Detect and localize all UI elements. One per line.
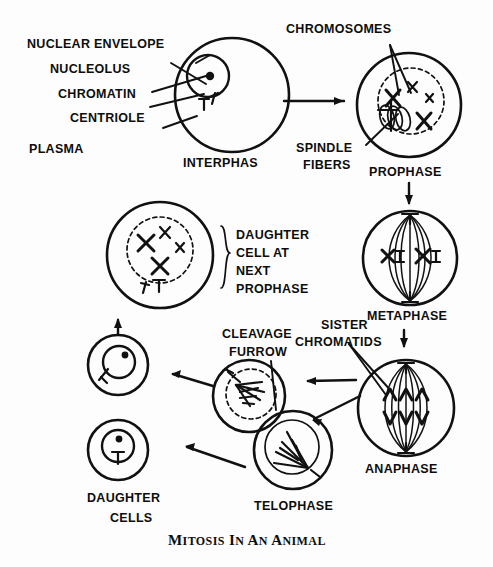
arrow-telophase-to-daughter-lower <box>185 443 245 467</box>
label-daughter-cells-line1: DAUGHTER <box>87 491 160 505</box>
title-a: A <box>248 532 259 548</box>
label-daughter-next-1: DAUGHTER <box>236 228 309 242</box>
arrow-interphase-to-prophase <box>284 97 344 105</box>
label-daughter-next-4: PROPHASE <box>236 282 309 296</box>
label-sister: SISTER <box>321 318 368 332</box>
label-centriole: CENTRIOLE <box>70 111 145 125</box>
stage-label-telophase: TELOPHASE <box>254 499 333 513</box>
daughter-cell-upper-centriole-2 <box>101 377 107 383</box>
anaphase-leader-line <box>349 344 392 392</box>
diagram-title: MITOSIS IN AN ANIMAL <box>168 532 326 548</box>
interphase-nucleolus-dot <box>206 72 214 80</box>
anaphase-spindle-fibers <box>385 364 427 452</box>
title-m: M <box>168 532 183 548</box>
stage-label-metaphase: METAPHASE <box>367 309 447 323</box>
anaphase-leader-line-2 <box>349 344 386 395</box>
label-chromatids: CHROMATIDS <box>295 335 382 349</box>
title-an: N <box>259 534 268 548</box>
stage-metaphase: METAPHASE <box>363 211 457 323</box>
title-itosis: ITOSIS <box>183 534 225 548</box>
next-prophase-chromosomes-small <box>160 227 184 252</box>
stage-interphase: NUCLEAR ENVELOPE NUCLEOLUS CHROMATIN CEN… <box>27 37 289 170</box>
mitosis-diagram-page: NUCLEAR ENVELOPE NUCLEOLUS CHROMATIN CEN… <box>0 0 493 567</box>
arrow-daughter-to-next-prophase <box>114 318 122 334</box>
arrow-anaphase-to-telophase-upper <box>306 377 356 385</box>
daughter-cell-upper-nucleus <box>103 346 135 378</box>
stage-label-anaphase: ANAPHASE <box>365 462 438 476</box>
label-chromatin: CHROMATIN <box>58 87 136 101</box>
label-nucleolus: NUCLEOLUS <box>50 62 130 76</box>
daughter-cell-upper-nucleolus <box>122 352 129 359</box>
label-nuclear-envelope: NUCLEAR ENVELOPE <box>27 37 164 51</box>
label-daughter-cells-line2: CELLS <box>110 511 152 525</box>
telophase-upper-chromatin <box>236 382 264 406</box>
label-spindle: SPINDLE <box>296 141 352 155</box>
arrow-prophase-to-metaphase <box>405 183 413 205</box>
brace <box>221 226 230 288</box>
label-chromosomes: CHROMOSOMES <box>286 22 391 36</box>
stage-daughter-cells: DAUGHTER CELLS <box>87 335 160 525</box>
interphase-plasma-membrane <box>175 38 289 152</box>
label-fibers: FIBERS <box>303 158 351 172</box>
mitosis-diagram: NUCLEAR ENVELOPE NUCLEOLUS CHROMATIN CEN… <box>0 0 493 567</box>
label-furrow: FURROW <box>229 345 287 359</box>
prophase-plasma-membrane <box>357 53 461 157</box>
telophase-lower-chromatin <box>274 432 308 468</box>
label-plasma: PLASMA <box>29 142 84 156</box>
stage-label-prophase: PROPHASE <box>369 165 442 179</box>
prophase-chromosomes-small <box>408 82 433 102</box>
label-daughter-next-3: NEXT <box>236 264 271 278</box>
title-nimal: NIMAL <box>282 534 325 548</box>
daughter-cell-lower-nucleolus <box>116 436 123 443</box>
stage-label-interphase: INTERPHAS <box>183 156 258 170</box>
label-daughter-next-2: CELL AT <box>236 246 289 260</box>
label-cleavage: CLEAVAGE <box>222 327 292 341</box>
telophase-lower-furrow-mark <box>311 470 320 477</box>
arrow-metaphase-to-anaphase <box>400 330 408 348</box>
title-n: N <box>235 534 244 548</box>
svg-text:MITOSIS IN AN ANIMAL: MITOSIS IN AN ANIMAL <box>168 532 326 548</box>
arrow-telophase-to-daughter-upper <box>171 370 213 386</box>
stage-daughter-cell-next-prophase: DAUGHTER CELL AT NEXT PROPHASE <box>107 202 309 308</box>
daughter-cell-upper-plasma-membrane <box>88 335 148 395</box>
next-prophase-chromosomes <box>138 235 168 274</box>
title-a2: A <box>271 532 282 548</box>
